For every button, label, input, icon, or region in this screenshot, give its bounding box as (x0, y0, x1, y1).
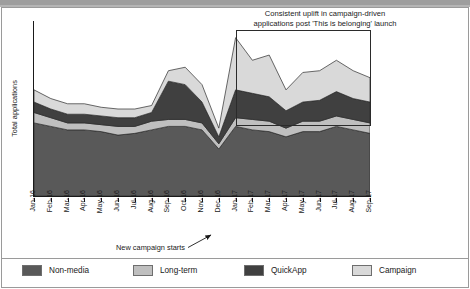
x-tick-may-16: May-16 (96, 198, 106, 238)
x-axis-ticks: Jan-16Feb-16Mar-16Apr-16May-16Jun-16Jul-… (34, 198, 371, 240)
chart-legend: Non-mediaLong-termQuickAppCampaign (0, 262, 470, 282)
x-tick-label: Jun-17 (315, 190, 322, 228)
x-tick-jul-16: Jul-16 (130, 198, 140, 238)
legend-label: QuickApp (271, 266, 307, 275)
x-tick-label: Jul-16 (130, 190, 137, 228)
campaign-start-label: New campaign starts (116, 243, 185, 252)
highlight-box (236, 30, 371, 126)
legend-item-non-media[interactable]: Non-media (22, 262, 89, 278)
x-tick-label: Aug-17 (348, 190, 355, 228)
legend-swatch (244, 265, 264, 276)
x-tick-label: Mar-17 (264, 190, 271, 228)
x-tick-jun-16: Jun-16 (113, 198, 123, 238)
legend-item-long-term[interactable]: Long-term (133, 262, 197, 278)
x-tick-jan-16: Jan-16 (29, 198, 39, 238)
x-tick-label: Mar-16 (63, 190, 70, 228)
x-tick-label: Jan-16 (29, 190, 36, 228)
x-tick-aug-17: Aug-17 (348, 198, 358, 238)
x-tick-apr-17: Apr-17 (281, 198, 291, 238)
x-tick-dec-16: Dec-16 (214, 198, 224, 238)
x-tick-jun-17: Jun-17 (315, 198, 325, 238)
legend-divider (1, 258, 468, 259)
legend-label: Long-term (160, 266, 197, 275)
x-tick-aug-16: Aug-16 (147, 198, 157, 238)
x-tick-nov-16: Nov-16 (197, 198, 207, 238)
x-tick-label: Aug-16 (147, 190, 154, 228)
x-tick-jul-17: Jul-17 (331, 198, 341, 238)
x-tick-may-17: May-17 (298, 198, 308, 238)
legend-swatch (22, 265, 42, 276)
y-axis-label: Total applications (10, 63, 19, 155)
x-tick-sep-16: Sep-16 (163, 198, 173, 238)
x-tick-apr-16: Apr-16 (79, 198, 89, 238)
x-tick-label: Sep-16 (163, 190, 170, 228)
x-tick-label: Jan-17 (231, 190, 238, 228)
legend-swatch (352, 265, 372, 276)
x-tick-label: Dec-16 (214, 190, 221, 228)
legend-label: Campaign (379, 266, 416, 275)
legend-item-campaign[interactable]: Campaign (352, 262, 416, 278)
x-tick-mar-17: Mar-17 (264, 198, 274, 238)
x-tick-label: May-17 (298, 190, 305, 228)
x-tick-sep-17: Sep-17 (365, 198, 375, 238)
x-tick-label: Apr-17 (281, 190, 288, 228)
x-tick-label: Sep-17 (365, 190, 372, 228)
x-tick-label: Nov-16 (197, 190, 204, 228)
x-tick-label: Jun-16 (113, 190, 120, 228)
x-tick-label: Jul-17 (331, 190, 338, 228)
legend-item-quickapp[interactable]: QuickApp (244, 262, 307, 278)
x-tick-feb-17: Feb-17 (247, 198, 257, 238)
x-tick-oct-16: Oct-16 (180, 198, 190, 238)
x-tick-mar-16: Mar-16 (63, 198, 73, 238)
area-series-non-media (34, 123, 370, 196)
legend-label: Non-media (49, 266, 89, 275)
chart-figure: Consistent uplift in campaign-driven app… (0, 0, 470, 289)
x-tick-label: Feb-16 (46, 190, 53, 228)
x-tick-label: Feb-17 (247, 190, 254, 228)
x-tick-jan-17: Jan-17 (231, 198, 241, 238)
x-tick-label: Oct-16 (180, 190, 187, 228)
x-tick-feb-16: Feb-16 (46, 198, 56, 238)
x-tick-label: Apr-16 (79, 190, 86, 228)
x-tick-label: May-16 (96, 190, 103, 228)
legend-swatch (133, 265, 153, 276)
